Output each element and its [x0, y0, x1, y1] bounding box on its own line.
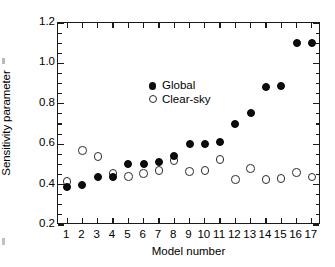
legend-entry-global: Global: [146, 79, 211, 93]
y-tick-minor: [58, 33, 62, 34]
data-point-global: [293, 39, 301, 47]
x-tick: [82, 218, 83, 223]
x-tick: [143, 23, 144, 28]
plot-area: Global Clear-sky: [57, 22, 320, 224]
data-point-clear-sky: [246, 164, 255, 173]
x-tick: [235, 218, 236, 223]
y-tick-major: [313, 184, 319, 185]
open-circle-icon: [146, 95, 159, 103]
filled-circle-icon: [146, 82, 159, 90]
data-point-global: [216, 138, 224, 146]
x-tick: [97, 23, 98, 28]
y-tick-minor: [58, 113, 62, 114]
y-tick-minor: [58, 214, 62, 215]
x-tick: [189, 218, 190, 223]
x-tick: [250, 218, 251, 223]
x-axis-tick-labels: 1234567891011121314151617: [57, 228, 320, 242]
y-tick-minor: [58, 83, 62, 84]
x-tick: [174, 23, 175, 28]
y-tick-minor: [58, 204, 62, 205]
y-tick-minor: [58, 43, 62, 44]
y-tick-minor: [316, 174, 320, 175]
x-tick: [174, 218, 175, 223]
y-tick-minor: [316, 154, 320, 155]
data-point-clear-sky: [124, 172, 133, 181]
y-tick-minor: [58, 73, 62, 74]
x-tick: [219, 23, 220, 28]
scan-artifact: [2, 238, 5, 245]
y-tick-minor: [316, 204, 320, 205]
data-point-global: [63, 183, 71, 191]
data-point-clear-sky: [308, 173, 317, 182]
scatter-chart-figure: Sensitivity parameter 0.20.40.60.81.01.2…: [0, 0, 335, 267]
y-tick-minor: [58, 93, 62, 94]
y-tick-minor: [316, 123, 320, 124]
y-tick-minor: [58, 194, 62, 195]
data-point-clear-sky: [292, 168, 301, 177]
data-point-clear-sky: [94, 152, 103, 161]
y-tick-minor: [316, 194, 320, 195]
y-tick-label: 0.6: [24, 137, 55, 149]
x-tick: [219, 218, 220, 223]
x-tick: [128, 218, 129, 223]
x-tick: [189, 23, 190, 28]
x-tick: [97, 218, 98, 223]
chart-legend: Global Clear-sky: [146, 79, 211, 106]
data-point-global: [140, 160, 148, 168]
x-tick-label: 17: [301, 228, 321, 240]
y-axis-title: Sensitivity parameter: [0, 22, 14, 224]
data-point-global: [78, 181, 86, 189]
data-point-global: [124, 160, 132, 168]
y-tick-label: 0.2: [24, 218, 55, 230]
y-tick-minor: [58, 174, 62, 175]
y-tick-minor: [316, 134, 320, 135]
x-tick: [281, 218, 282, 223]
x-tick: [112, 218, 113, 223]
y-tick-minor: [316, 83, 320, 84]
data-point-global: [201, 140, 209, 148]
x-tick: [311, 23, 312, 28]
y-tick-minor: [58, 53, 62, 54]
y-tick-major: [58, 224, 64, 225]
data-point-global: [109, 173, 117, 181]
legend-entry-clear-sky: Clear-sky: [146, 93, 211, 107]
data-point-clear-sky: [201, 166, 210, 175]
data-point-global: [94, 173, 102, 181]
y-tick-label: 0.8: [24, 97, 55, 109]
x-tick: [296, 23, 297, 28]
data-point-global: [262, 83, 270, 91]
x-tick: [281, 23, 282, 28]
y-tick-major: [313, 22, 319, 23]
y-tick-major: [313, 103, 319, 104]
y-tick-label: 1.0: [24, 56, 55, 68]
data-point-clear-sky: [139, 169, 148, 178]
x-tick: [158, 23, 159, 28]
y-tick-minor: [316, 214, 320, 215]
data-point-global: [277, 82, 285, 90]
x-tick: [265, 218, 266, 223]
x-tick: [265, 23, 266, 28]
y-tick-minor: [58, 134, 62, 135]
y-tick-major: [313, 224, 319, 225]
x-tick: [235, 23, 236, 28]
x-tick: [204, 23, 205, 28]
x-tick: [67, 218, 68, 223]
x-tick: [204, 218, 205, 223]
data-point-clear-sky: [277, 174, 286, 183]
data-point-global: [231, 120, 239, 128]
x-tick: [143, 218, 144, 223]
x-tick: [128, 23, 129, 28]
y-tick-minor: [316, 73, 320, 74]
y-tick-minor: [316, 164, 320, 165]
y-tick-major: [58, 144, 64, 145]
data-point-global: [186, 140, 194, 148]
x-tick: [67, 23, 68, 28]
y-tick-major: [58, 63, 64, 64]
y-tick-minor: [316, 53, 320, 54]
legend-label-global: Global: [162, 79, 195, 93]
data-point-global: [308, 39, 316, 47]
y-tick-minor: [316, 93, 320, 94]
y-tick-minor: [58, 154, 62, 155]
data-point-global: [155, 158, 163, 166]
data-point-clear-sky: [155, 166, 164, 175]
